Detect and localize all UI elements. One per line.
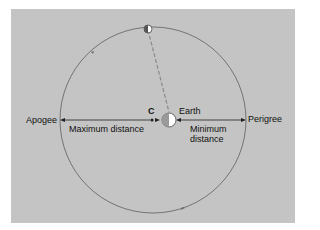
max-distance-label: Maximum distance xyxy=(69,124,144,134)
center-label: C xyxy=(148,106,155,116)
center-point xyxy=(150,118,153,121)
min-distance-label-line1: Minimum xyxy=(190,124,227,134)
earth-shadow xyxy=(162,113,169,127)
arrowhead-right-icon xyxy=(241,118,246,122)
arrowhead-right-icon xyxy=(155,118,160,122)
moon-earth-dashed-line xyxy=(148,30,169,112)
perigree-label: Perigree xyxy=(248,114,282,124)
earth-label: Earth xyxy=(179,106,201,116)
arrowhead-left-icon xyxy=(176,118,181,122)
min-distance-label-line2: distance xyxy=(190,134,224,144)
apogee-label: Apogee xyxy=(26,115,57,125)
moon-shadow xyxy=(144,25,148,33)
arrowhead-left-icon xyxy=(60,118,65,122)
orbit-direction-arrow-icon xyxy=(91,51,94,54)
